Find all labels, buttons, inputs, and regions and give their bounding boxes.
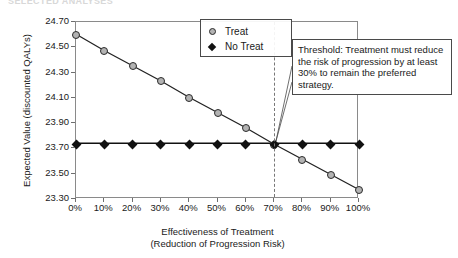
x-tick-mark [75,198,76,202]
y-tick-mark [71,72,75,73]
x-axis-title-line1: Effectiveness of Treatment [75,226,360,238]
x-tick-mark [188,198,189,202]
x-tick-label: 90% [315,202,345,213]
x-tick-mark [301,198,302,202]
data-point-treat [157,77,165,85]
x-tick-label: 80% [286,202,316,213]
x-tick-label: 100% [343,202,373,213]
data-point-no-treat [241,140,251,150]
data-point-no-treat [156,140,166,150]
x-tick-label: 30% [145,202,175,213]
y-tick-label: 24.50 [25,40,69,51]
data-point-treat [72,31,80,39]
legend-label-no-treat: No Treat [223,41,263,52]
x-tick-label: 0% [60,202,90,213]
legend-item-treat: Treat [209,24,291,39]
data-point-no-treat [99,140,109,150]
y-tick-label: 23.90 [25,116,69,127]
data-point-no-treat [213,140,223,150]
cropped-title-remnant: SELECTED ANALYSES [8,0,113,6]
data-point-no-treat [297,140,307,150]
data-point-treat [100,47,108,55]
x-tick-label: 50% [202,202,232,213]
x-tick-mark [245,198,246,202]
y-tick-label: 24.10 [25,91,69,102]
circle-marker-icon [209,28,223,35]
threshold-annotation-box: Threshold: Treatment must reduce the ris… [292,39,452,95]
y-tick-mark [71,173,75,174]
x-tick-mark [330,198,331,202]
x-axis-title-line2: (Reduction of Progression Risk) [75,238,360,250]
data-point-treat [129,62,137,70]
y-tick-label: 23.70 [25,141,69,152]
x-tick-label: 10% [88,202,118,213]
y-tick-label: 23.50 [25,167,69,178]
x-tick-label: 60% [230,202,260,213]
diamond-marker-icon [209,44,223,50]
chart-figure: SELECTED ANALYSES Expected Value (discou… [0,0,458,258]
data-point-no-treat [326,140,336,150]
x-tick-mark [132,198,133,202]
x-tick-mark [103,198,104,202]
y-tick-mark [71,46,75,47]
legend-label-treat: Treat [223,26,248,37]
y-tick-mark [71,97,75,98]
data-point-no-treat [184,140,194,150]
chart-legend: Treat No Treat [200,19,292,57]
y-tick-mark [71,122,75,123]
x-tick-mark [217,198,218,202]
x-tick-label: 70% [258,202,288,213]
y-tick-label: 24.30 [25,66,69,77]
x-tick-label: 40% [173,202,203,213]
data-point-treat [298,156,306,164]
y-tick-mark [71,21,75,22]
x-axis-title: Effectiveness of Treatment (Reduction of… [75,226,360,250]
x-tick-mark [273,198,274,202]
data-point-treat [214,109,222,117]
data-point-no-treat [128,140,138,150]
data-point-treat [185,94,193,102]
x-tick-mark [160,198,161,202]
x-tick-mark [358,198,359,202]
y-tick-label: 24.70 [25,15,69,26]
data-point-no-treat [354,140,364,150]
y-tick-mark [71,147,75,148]
data-point-treat [327,171,335,179]
data-point-treat [355,186,363,194]
x-tick-label: 20% [117,202,147,213]
legend-item-no-treat: No Treat [209,39,291,54]
data-point-treat [242,124,250,132]
